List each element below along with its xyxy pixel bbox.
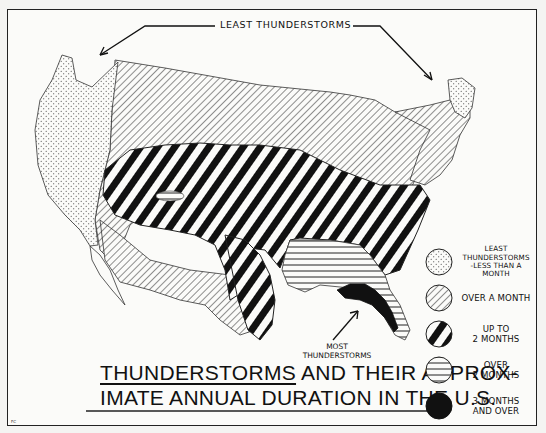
fine-diagonal-swatch-icon	[425, 284, 453, 312]
region-colorado-over-2-months	[156, 191, 184, 201]
legend-item-least: LEAST THUNDERSTORMS -LESS THAN A MONTH	[422, 244, 534, 280]
title-underlined-word: THUNDERSTORMS	[100, 361, 296, 384]
least-thunderstorms-label: LEAST THUNDERSTORMS	[218, 19, 353, 30]
legend-item-over-2-months: OVER 2 MONTHS	[422, 352, 534, 388]
solid-black-swatch-icon	[425, 392, 453, 420]
legend: LEAST THUNDERSTORMS -LESS THAN A MONTH O…	[422, 244, 534, 424]
legend-item-up-to-2-months: UP TO 2 MONTHS	[422, 316, 534, 352]
horizontal-lines-swatch-icon	[425, 356, 453, 384]
bold-diagonal-swatch-icon	[425, 320, 453, 348]
most-arrow	[333, 311, 358, 340]
artist-initials: FC	[11, 419, 16, 424]
dots-swatch-icon	[425, 248, 453, 276]
legend-item-over-a-month: OVER A MONTH	[422, 280, 534, 316]
most-thunderstorms-label: MOST THUNDERSTORMS	[292, 343, 382, 360]
legend-item-3-months-and-over: 3 MONTHS AND OVER	[422, 388, 534, 424]
